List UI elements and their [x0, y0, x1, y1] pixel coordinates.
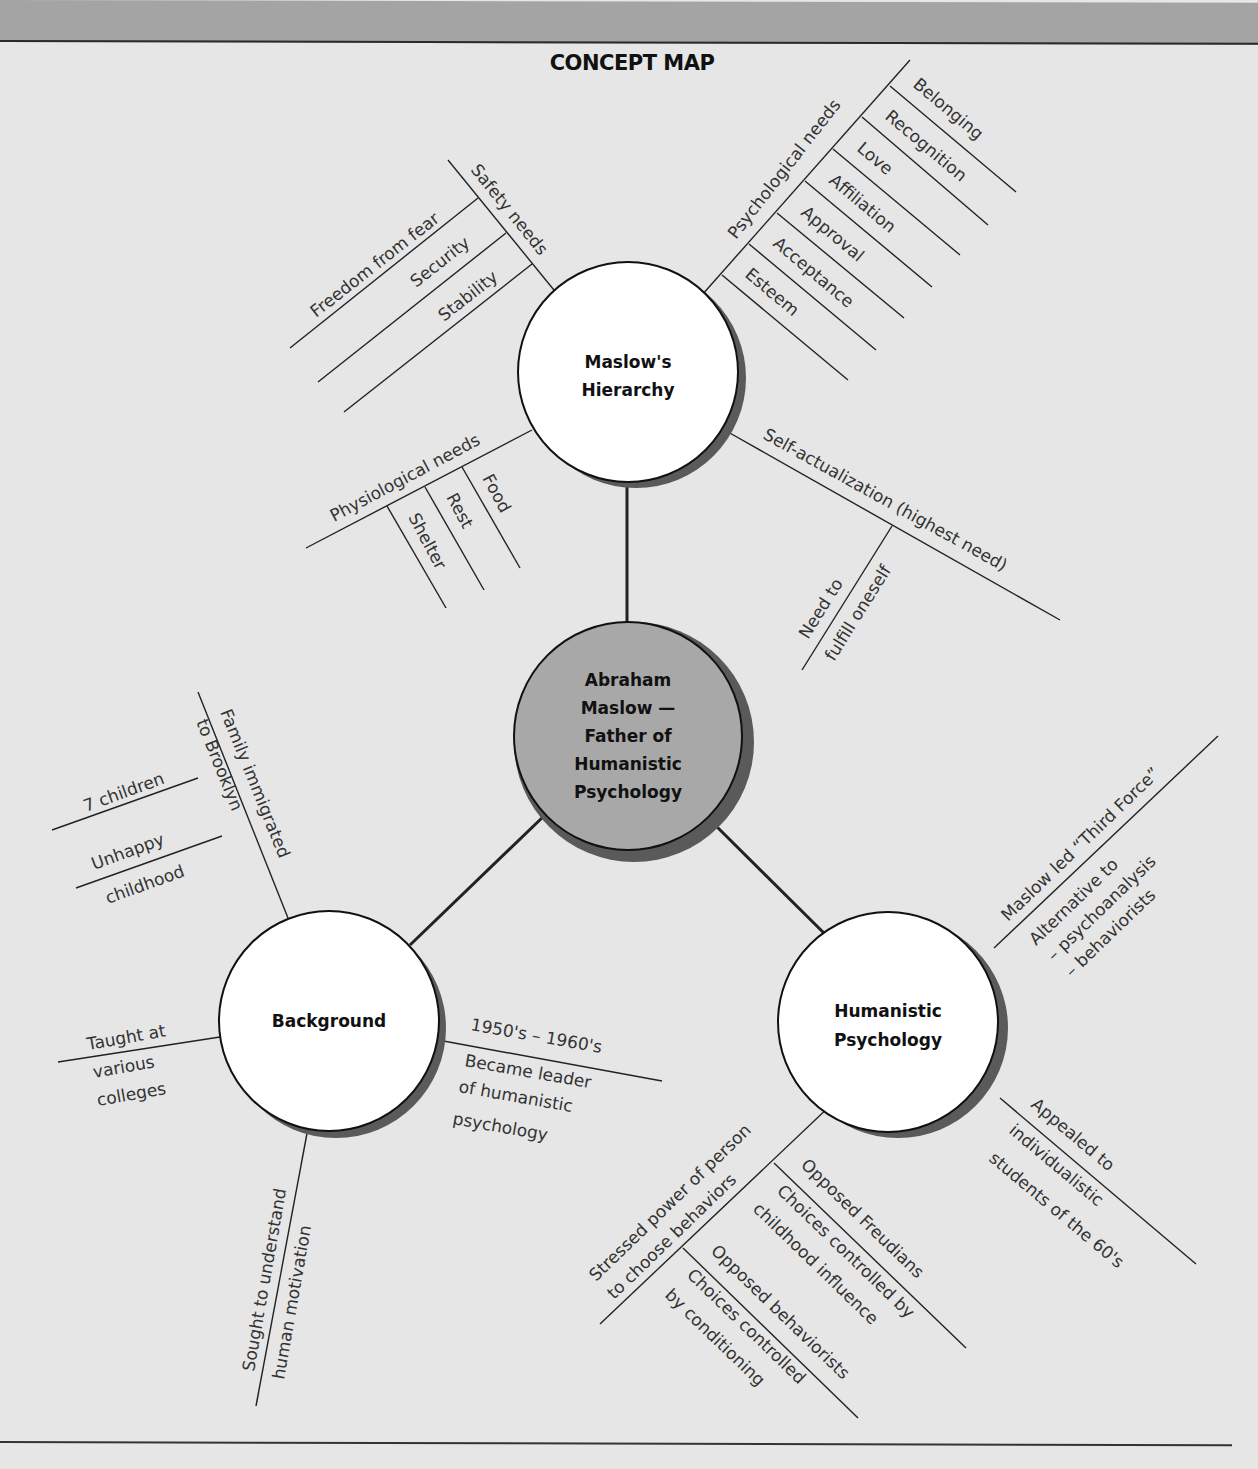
label-food: Food [478, 470, 515, 515]
branch-family: Family immigrated to Brooklyn 7 children… [52, 692, 294, 918]
label-self-actualization: Self-actualization (highest need) [760, 424, 1011, 575]
center-label-line3: Father of [584, 726, 672, 746]
node-humanistic-psychology[interactable]: Humanistic Psychology [778, 912, 1008, 1138]
branch-third-force: Maslow led “Third Force” Alternative to … [994, 736, 1218, 981]
center-label-line1: Abraham [585, 670, 671, 690]
branch-leader: 1950's – 1960's Became leader of humanis… [438, 1014, 662, 1144]
node-label-line1: Humanistic [834, 1001, 942, 1021]
label-taught-at: Taught at [84, 1020, 167, 1054]
label-psychology: psychology [451, 1108, 549, 1144]
branch-appealed: Appealed to individualistic students of … [985, 1094, 1196, 1272]
branch-psychological-needs: Psychological needs Belonging Recognitio… [702, 60, 1016, 380]
label-unhappy: Unhappy [89, 829, 167, 874]
label-childhood: childhood [103, 861, 188, 908]
branch-sought: Sought to understand human motivation [238, 1128, 315, 1406]
page-title: CONCEPT MAP [550, 51, 715, 75]
node-label-line1: Maslow's [584, 352, 671, 372]
label-7-children: 7 children [81, 768, 167, 816]
node-maslows-hierarchy[interactable]: Maslow's Hierarchy [518, 262, 746, 488]
branch-physiological-needs: Physiological needs Food Rest Shelter [306, 429, 532, 608]
label-love: Love [853, 138, 897, 179]
node-center-abraham-maslow[interactable]: Abraham Maslow — Father of Humanistic Ps… [514, 622, 754, 862]
node-label-line2: Psychology [834, 1030, 942, 1050]
connector-background [410, 815, 545, 945]
node-label: Background [272, 1011, 386, 1031]
label-colleges: colleges [95, 1078, 167, 1110]
concept-map: CONCEPT MAP Safety needs Freedom from fe… [0, 0, 1258, 1469]
center-label-line5: Psychology [574, 782, 682, 802]
branch-stressed: Stressed power of person to choose behav… [585, 1104, 966, 1418]
connector-humanistic [705, 815, 836, 945]
branch-taught: Taught at various colleges [58, 1020, 220, 1110]
label-safety-needs: Safety needs [467, 160, 553, 259]
branch-self-actualization: Self-actualization (highest need) Need t… [728, 424, 1060, 670]
label-1950s-1960s: 1950's – 1960's [469, 1014, 603, 1057]
center-label-line4: Humanistic [574, 754, 682, 774]
center-label-line2: Maslow — [581, 698, 676, 718]
node-label-line2: Hierarchy [581, 380, 674, 400]
label-esteem: Esteem [741, 264, 803, 320]
